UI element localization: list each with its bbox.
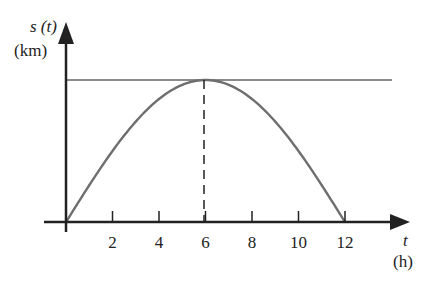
x-ticks: 24681012 bbox=[108, 211, 353, 252]
chart: 24681012 s (t) (km) t (h) bbox=[0, 0, 433, 289]
y-axis-arrow-icon bbox=[58, 22, 74, 44]
x-tick-label: 4 bbox=[155, 233, 164, 252]
x-tick-label: 12 bbox=[337, 233, 354, 252]
x-tick-label: 10 bbox=[290, 233, 307, 252]
x-axis-label: t bbox=[403, 231, 409, 250]
x-tick-label: 2 bbox=[108, 233, 117, 252]
x-tick-label: 8 bbox=[248, 233, 257, 252]
x-axis-unit: (h) bbox=[393, 252, 413, 271]
x-tick-label: 6 bbox=[201, 233, 210, 252]
x-axis-arrow-icon bbox=[390, 214, 410, 230]
y-axis-unit: (km) bbox=[14, 41, 47, 60]
s-curve bbox=[66, 80, 345, 222]
y-axis-label: s (t) bbox=[30, 17, 57, 36]
